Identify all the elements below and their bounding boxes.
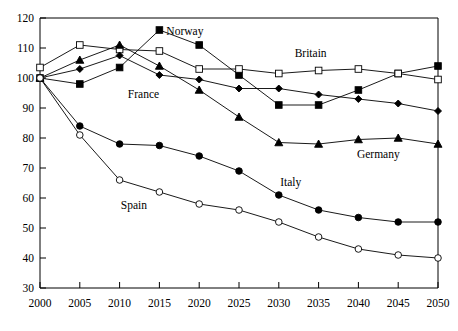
series-label-britain: Britain: [295, 47, 327, 59]
marker-filled-square: [116, 64, 123, 71]
marker-filled-square: [156, 27, 163, 34]
x-tick-label-2040: 2040: [347, 297, 370, 309]
marker-filled-circle: [435, 219, 442, 226]
series-label-italy: Italy: [280, 176, 301, 189]
y-tick-label-60: 60: [23, 192, 35, 204]
marker-filled-circle: [236, 168, 243, 175]
marker-filled-diamond: [395, 100, 402, 107]
marker-open-square: [77, 42, 84, 49]
marker-open-square: [276, 70, 283, 77]
marker-open-circle: [156, 189, 163, 196]
marker-filled-square: [315, 102, 322, 109]
series-line-germany: [40, 45, 438, 144]
y-tick-label-100: 100: [17, 72, 35, 84]
marker-filled-square: [77, 81, 84, 88]
marker-filled-circle: [395, 219, 402, 226]
marker-open-circle: [276, 219, 283, 226]
x-tick-label-2035: 2035: [307, 297, 330, 309]
marker-open-square: [355, 66, 362, 73]
x-tick-label-2025: 2025: [228, 297, 251, 309]
series-label-france: France: [128, 88, 159, 100]
marker-filled-diamond: [236, 85, 243, 92]
marker-filled-square: [355, 87, 362, 94]
series-line-france: [40, 56, 438, 112]
marker-filled-diamond: [435, 108, 442, 115]
marker-open-square: [196, 66, 203, 73]
marker-open-circle: [315, 234, 322, 241]
marker-filled-diamond: [76, 66, 83, 73]
y-tick-label-70: 70: [23, 162, 35, 174]
marker-filled-triangle: [275, 139, 283, 146]
marker-filled-circle: [276, 192, 283, 199]
series-france: [37, 52, 442, 115]
marker-filled-square: [435, 63, 442, 70]
x-tick-label-2010: 2010: [108, 297, 131, 309]
y-tick-label-40: 40: [23, 252, 35, 264]
chart-container: 3040506070809010011012020002005201020152…: [0, 0, 458, 331]
marker-open-circle: [37, 75, 44, 82]
marker-filled-circle: [116, 141, 123, 148]
marker-filled-circle: [196, 153, 203, 160]
marker-filled-square: [276, 102, 283, 109]
marker-filled-triangle: [235, 113, 243, 120]
marker-open-circle: [77, 132, 84, 139]
series-label-germany: Germany: [357, 148, 400, 161]
x-tick-label-2020: 2020: [188, 297, 211, 309]
x-tick-label-2030: 2030: [267, 297, 290, 309]
marker-filled-circle: [156, 142, 163, 149]
marker-filled-diamond: [355, 96, 362, 103]
marker-open-square: [395, 70, 402, 77]
y-tick-label-120: 120: [17, 12, 35, 24]
x-tick-label-2050: 2050: [427, 297, 450, 309]
marker-filled-triangle: [394, 134, 402, 141]
marker-open-square: [156, 48, 163, 55]
y-tick-label-90: 90: [23, 102, 35, 114]
marker-filled-triangle: [116, 41, 124, 48]
marker-open-circle: [435, 255, 442, 262]
series-label-spain: Spain: [121, 199, 147, 212]
x-tick-label-2000: 2000: [29, 297, 52, 309]
y-tick-label-80: 80: [23, 132, 35, 144]
marker-open-circle: [236, 207, 243, 214]
marker-filled-triangle: [76, 56, 84, 63]
marker-filled-square: [196, 42, 203, 49]
marker-open-square: [37, 64, 44, 71]
marker-filled-circle: [315, 207, 322, 214]
x-tick-label-2005: 2005: [68, 297, 91, 309]
marker-open-square: [315, 67, 322, 74]
marker-filled-diamond: [275, 85, 282, 92]
marker-open-square: [236, 66, 243, 73]
marker-filled-triangle: [195, 86, 203, 93]
marker-filled-circle: [355, 214, 362, 221]
marker-open-circle: [395, 252, 402, 259]
marker-filled-circle: [77, 123, 84, 130]
line-chart: 3040506070809010011012020002005201020152…: [0, 0, 458, 331]
series-label-norway: Norway: [166, 25, 203, 38]
series-germany: [36, 41, 442, 147]
marker-open-circle: [196, 201, 203, 208]
marker-filled-diamond: [315, 91, 322, 98]
marker-open-circle: [355, 246, 362, 253]
marker-filled-diamond: [196, 76, 203, 83]
marker-open-square: [435, 76, 442, 83]
marker-filled-diamond: [156, 72, 163, 79]
x-tick-label-2045: 2045: [387, 297, 410, 309]
y-tick-label-110: 110: [17, 42, 34, 54]
y-tick-label-30: 30: [23, 282, 35, 294]
marker-filled-triangle: [155, 62, 163, 69]
marker-open-circle: [116, 177, 123, 184]
x-tick-label-2015: 2015: [148, 297, 171, 309]
y-tick-label-50: 50: [23, 222, 35, 234]
